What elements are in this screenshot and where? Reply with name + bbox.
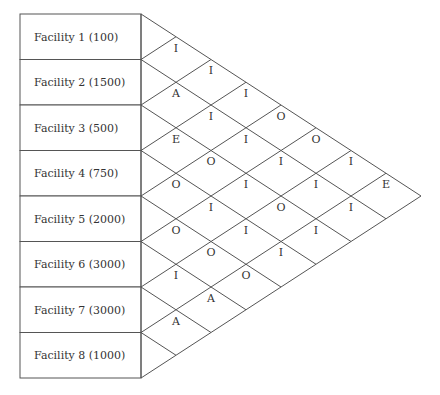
relationship-code-1-5: O — [276, 110, 285, 123]
facility-row: Facility 6 (3000) — [20, 242, 141, 288]
relationship-code-5-7: O — [206, 246, 215, 259]
relationship-code-2-7: I — [314, 178, 318, 191]
facility-row: Facility 1 (100) — [20, 14, 141, 60]
facility-row: Facility 8 (1000) — [20, 333, 141, 379]
relationship-code-1-2: I — [174, 42, 178, 55]
relationship-code-3-8: I — [314, 224, 318, 237]
relationship-code-2-5: I — [244, 133, 248, 146]
grid-line-down — [141, 242, 246, 310]
facility-row: Facility 2 (1500) — [20, 60, 141, 106]
relationship-code-1-8: E — [382, 178, 390, 191]
relationship-grid — [141, 14, 421, 378]
facility-row: Facility 5 (2000) — [20, 196, 141, 242]
relationship-chart: Facility 1 (100)Facility 2 (1500)Facilit… — [0, 0, 440, 395]
relationship-code-6-8: A — [206, 292, 216, 305]
facility-label: Facility 3 (500) — [34, 122, 118, 135]
facility-list: Facility 1 (100)Facility 2 (1500)Facilit… — [20, 14, 141, 378]
facility-row: Facility 3 (500) — [20, 105, 141, 151]
relationship-code-3-6: I — [244, 178, 248, 191]
grid-line-up — [141, 82, 246, 150]
relationship-code-5-6: O — [171, 224, 180, 237]
relationship-code-3-4: E — [172, 133, 180, 146]
relationship-code-4-5: O — [171, 178, 180, 191]
facility-row: Facility 4 (750) — [20, 151, 141, 197]
facility-label: Facility 4 (750) — [34, 167, 118, 180]
facility-row: Facility 7 (3000) — [20, 287, 141, 333]
relationship-code-3-7: O — [276, 201, 285, 214]
relationship-code-1-3: I — [209, 64, 213, 77]
relationship-code-6-7: I — [174, 269, 178, 282]
relationship-code-1-6: O — [311, 133, 320, 146]
relationship-code-2-4: I — [209, 110, 213, 123]
relationship-code-2-6: I — [279, 155, 283, 168]
facility-label: Facility 6 (3000) — [34, 258, 125, 271]
facility-label: Facility 7 (3000) — [34, 304, 125, 317]
relationship-code-4-7: I — [244, 224, 248, 237]
relationship-code-1-7: I — [349, 155, 353, 168]
relationship-code-3-5: O — [206, 155, 215, 168]
grid-line-up — [141, 173, 386, 332]
relationship-code-4-8: I — [279, 246, 283, 259]
grid-line-up — [141, 37, 176, 60]
facility-label: Facility 8 (1000) — [34, 349, 125, 362]
relationship-codes: IAEOOIAIIOIOAIIIIOOIOIOIIIIE — [171, 42, 390, 328]
grid-line-down — [141, 333, 176, 356]
relationship-code-2-8: I — [349, 201, 353, 214]
grid-line-up — [141, 128, 316, 242]
relationship-code-5-8: O — [241, 269, 250, 282]
facility-label: Facility 5 (2000) — [34, 213, 125, 226]
grid-line-down — [141, 151, 316, 265]
facility-label: Facility 1 (100) — [34, 31, 118, 44]
facility-label: Facility 2 (1500) — [34, 76, 125, 89]
relationship-code-7-8: A — [171, 315, 181, 328]
relationship-code-1-4: I — [244, 87, 248, 100]
relationship-code-4-6: I — [209, 201, 213, 214]
relationship-code-2-3: A — [171, 87, 181, 100]
